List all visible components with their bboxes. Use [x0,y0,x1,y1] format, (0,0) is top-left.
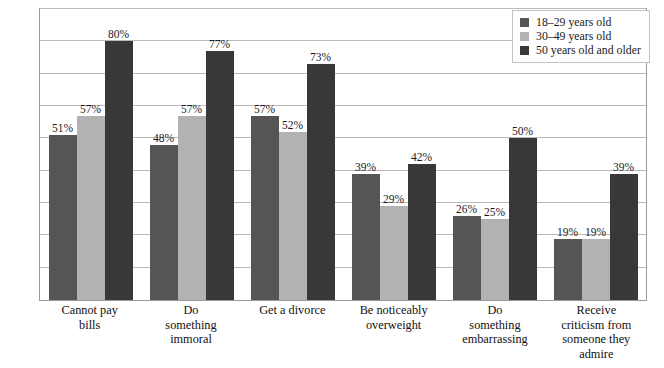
x-axis-category-label: Receivecriticism fromsomeone theyadmire [546,303,646,367]
bar-value-label: 80% [108,28,129,40]
bar-value-label: 48% [153,132,174,144]
bar-value-label: 51% [52,122,73,134]
bar-value-label: 57% [80,103,101,115]
bar-value-label: 29% [383,193,404,205]
bar[interactable]: 39% [610,174,638,300]
legend-item[interactable]: 18–29 years old [520,15,641,29]
bar-slot: 39% [352,9,380,300]
bar[interactable]: 26% [453,216,481,300]
bar[interactable]: 19% [582,239,610,300]
x-axis-category-label: Cannot paybills [40,303,140,367]
x-axis-category-line: bills [79,318,100,332]
x-axis-category-line: overweight [366,318,421,332]
x-axis-category-line: Do [183,303,198,317]
bar[interactable]: 57% [178,116,206,300]
bar[interactable]: 39% [352,174,380,300]
bar-value-label: 42% [411,151,432,163]
x-axis-category-label: Get a divorce [242,303,342,367]
x-axis-category-line: someone they [562,332,630,346]
bar-slot: 57% [251,9,279,300]
bar[interactable]: 42% [408,164,436,300]
x-axis-category-label: Be noticeablyoverweight [344,303,444,367]
bar-group: 57%52%73% [251,9,335,300]
legend-item[interactable]: 30–49 years old [520,29,641,43]
bar-slot: 29% [380,9,408,300]
x-axis-category-line: embarrassing [462,332,528,346]
x-axis-category-line: immoral [170,332,212,346]
bar-slot: 42% [408,9,436,300]
bar-group: 39%29%42% [352,9,436,300]
x-axis-category-line: something [165,318,216,332]
bar-slot: 77% [206,9,234,300]
x-axis-category-line: Be noticeably [360,303,428,317]
bar[interactable]: 19% [554,239,582,300]
x-axis-category-label: Dosomethingembarrassing [445,303,545,367]
x-axis-category-line: Receive [576,303,616,317]
bar[interactable]: 52% [279,132,307,300]
chart-legend: 18–29 years old30–49 years old50 years o… [512,10,650,63]
bar[interactable]: 80% [105,41,133,300]
bar-value-label: 26% [456,203,477,215]
bar-slot: 73% [307,9,335,300]
x-axis-category-line: something [469,318,520,332]
bar-slot: 25% [481,9,509,300]
x-axis-category-line: Get a divorce [259,303,325,317]
legend-swatch-icon [520,46,529,55]
y-axis-title: PERCENTAGE WHO WOULD FEEL BADLY ABOUT TH… [0,0,38,300]
x-axis-category-label: Dosomethingimmoral [141,303,241,367]
bar[interactable]: 57% [251,116,279,300]
legend-item-label: 30–49 years old [536,29,611,44]
legend-item-label: 18–29 years old [536,15,611,30]
x-axis-labels: Cannot paybillsDosomethingimmoralGet a d… [39,303,647,367]
x-axis-category-line: Do [487,303,502,317]
bar-slot: 52% [279,9,307,300]
legend-swatch-icon [520,18,529,27]
bar-slot: 51% [49,9,77,300]
bar[interactable]: 51% [49,135,77,300]
x-axis-category-line: criticism from [561,318,631,332]
bar-value-label: 39% [355,161,376,173]
bar[interactable]: 73% [307,64,335,300]
bar[interactable]: 48% [150,145,178,300]
bar[interactable]: 77% [206,51,234,300]
legend-swatch-icon [520,32,529,41]
bar[interactable]: 50% [509,138,537,300]
bar-value-label: 73% [310,51,331,63]
bar-slot: 48% [150,9,178,300]
bar-slot: 57% [77,9,105,300]
bar-value-label: 39% [613,161,634,173]
bar-value-label: 19% [585,226,606,238]
bar-slot: 57% [178,9,206,300]
bar[interactable]: 25% [481,219,509,300]
legend-item[interactable]: 50 years old and older [520,43,641,57]
legend-item-label: 50 years old and older [536,43,641,58]
x-axis-category-line: Cannot pay [61,303,117,317]
bar-slot: 26% [453,9,481,300]
bar-slot: 80% [105,9,133,300]
bar-value-label: 19% [557,226,578,238]
bar-value-label: 50% [512,125,533,137]
bar-chart-figure: PERCENTAGE WHO WOULD FEEL BADLY ABOUT TH… [0,0,664,368]
x-axis-category-line: admire [579,347,613,361]
bar-value-label: 57% [254,103,275,115]
bar-group: 51%57%80% [49,9,133,300]
bar-group: 48%57%77% [150,9,234,300]
bar[interactable]: 57% [77,116,105,300]
bar-value-label: 57% [181,103,202,115]
bar-value-label: 77% [209,38,230,50]
bar-value-label: 25% [484,206,505,218]
bar-value-label: 52% [282,119,303,131]
bar[interactable]: 29% [380,206,408,300]
